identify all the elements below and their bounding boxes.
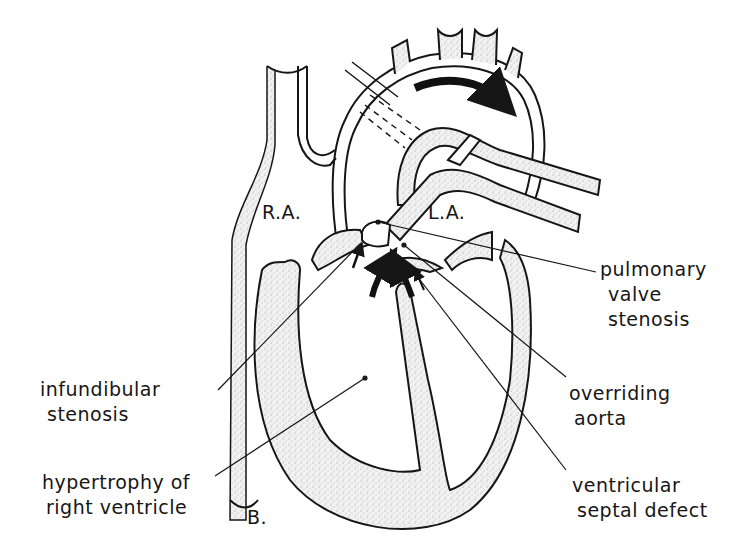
label-line: infundibular xyxy=(40,377,160,402)
label-line: valve xyxy=(600,282,707,307)
label-line: hypertrophy of xyxy=(42,470,190,495)
left-atrium-label: L.A. xyxy=(428,201,465,223)
pulmonary-arteries xyxy=(385,128,600,240)
label-overriding-aorta: overriding aorta xyxy=(569,381,671,431)
label-line: pulmonary xyxy=(600,257,707,282)
label-pulmonary-valve-stenosis: pulmonary valve stenosis xyxy=(600,257,707,332)
label-infundibular-stenosis: infundibular stenosis xyxy=(40,377,160,427)
ductus-dashed xyxy=(360,95,420,148)
label-line: stenosis xyxy=(40,402,160,427)
label-line: aorta xyxy=(569,406,671,431)
label-line: overriding xyxy=(569,381,671,406)
label-line: septal defect xyxy=(572,498,708,523)
right-atrium-label: R.A. xyxy=(262,201,301,223)
shunt-arrows xyxy=(353,248,424,297)
label-line: right ventricle xyxy=(42,495,190,520)
label-ventricular-septal-defect: ventricular septal defect xyxy=(572,473,708,523)
label-line: stenosis xyxy=(600,307,707,332)
label-hypertrophy-right-ventricle: hypertrophy of right ventricle xyxy=(42,470,190,520)
panel-letter: B. xyxy=(247,506,267,528)
ventricles xyxy=(255,240,531,529)
flow-arrow-icon xyxy=(415,81,500,100)
label-line: ventricular xyxy=(572,473,708,498)
